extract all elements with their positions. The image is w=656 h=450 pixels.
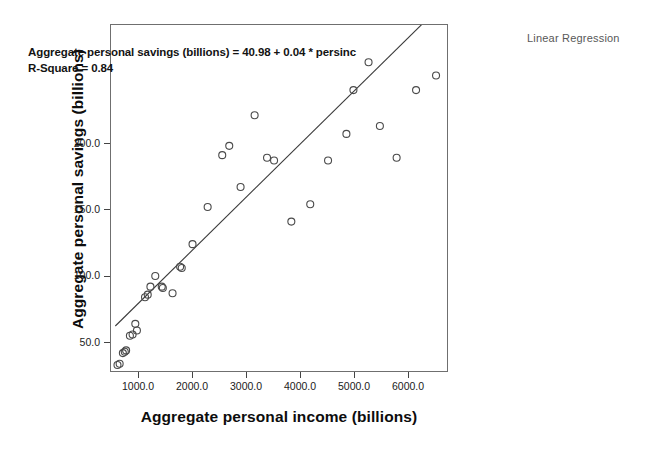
x-axis-tick: [300, 372, 301, 378]
x-axis-tick-label: 3000.0: [218, 380, 274, 392]
linear-regression-chart-page: Linear Regression Aggregate personal sav…: [0, 0, 656, 450]
x-axis-tick: [138, 372, 139, 378]
x-axis-tick: [192, 372, 193, 378]
x-axis-tick-label: 5000.0: [326, 380, 382, 392]
data-point: [413, 87, 420, 94]
y-axis-tick-label: 150.0: [54, 203, 100, 215]
y-axis-tick: [104, 276, 110, 277]
data-point: [189, 241, 196, 248]
data-point: [350, 87, 357, 94]
data-point: [147, 283, 154, 290]
y-axis-tick-label: 100.0: [54, 269, 100, 281]
data-point: [271, 157, 278, 164]
data-point: [169, 290, 176, 297]
data-point: [307, 201, 314, 208]
data-point: [152, 273, 159, 280]
data-point: [433, 72, 440, 79]
data-point: [376, 122, 383, 129]
data-point: [226, 142, 233, 149]
data-point: [237, 184, 244, 191]
data-point: [325, 157, 332, 164]
data-point: [132, 320, 139, 327]
regression-annotation: Aggregate personal savings (billions) = …: [28, 44, 356, 76]
r-square-text: R-Square = 0.84: [28, 60, 356, 76]
scatter-plot-svg: [111, 25, 449, 373]
x-axis-tick-label: 2000.0: [164, 380, 220, 392]
x-axis-tick: [246, 372, 247, 378]
data-point: [365, 59, 372, 66]
y-axis-tick: [104, 342, 110, 343]
data-point: [343, 130, 350, 137]
data-point: [264, 154, 271, 161]
y-axis-title: Aggregate personal savings (billions): [69, 29, 87, 349]
x-axis-tick-label: 4000.0: [272, 380, 328, 392]
data-point: [116, 360, 123, 367]
y-axis-tick-label: 50.0: [54, 336, 100, 348]
x-axis-tick-label: 6000.0: [380, 380, 436, 392]
x-axis-title: Aggregate personal income (billions): [110, 408, 448, 426]
data-point: [178, 265, 185, 272]
data-point: [133, 327, 140, 334]
data-point: [219, 152, 226, 159]
data-point: [288, 218, 295, 225]
data-point: [393, 154, 400, 161]
x-axis-tick: [408, 372, 409, 378]
y-axis-tick-label: 200.0: [54, 137, 100, 149]
y-axis-tick: [104, 143, 110, 144]
y-axis-tick: [104, 209, 110, 210]
data-point: [204, 203, 211, 210]
data-point: [251, 112, 258, 119]
chart-caption: Linear Regression: [527, 32, 620, 44]
regression-equation-text: Aggregate personal savings (billions) = …: [28, 44, 356, 60]
plot-area: [110, 24, 448, 372]
x-axis-tick: [354, 372, 355, 378]
x-axis-tick-label: 1000.0: [110, 380, 166, 392]
